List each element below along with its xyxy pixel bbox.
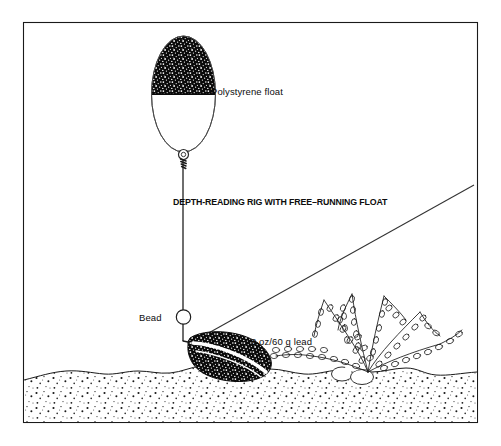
diagram-title: DEPTH-READING RIG WITH FREE–RUNNING FLOA… bbox=[173, 197, 388, 207]
float-label: Polystyrene float bbox=[211, 86, 283, 97]
polystyrene-float bbox=[152, 36, 216, 152]
fishing-rig-diagram: Polystyrene float Bead 2 oz/60 g lead DE… bbox=[0, 0, 501, 446]
bead bbox=[176, 310, 190, 324]
lead-label: 2 oz/60 g lead bbox=[251, 336, 312, 347]
bead-label: Bead bbox=[139, 312, 162, 323]
